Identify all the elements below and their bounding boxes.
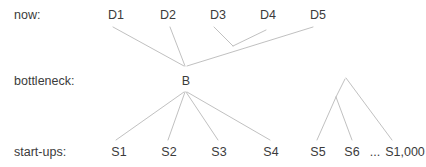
row-label-startups: start-ups: xyxy=(14,145,66,159)
node-d5: D5 xyxy=(310,8,326,22)
node-d4: D4 xyxy=(260,8,276,22)
node-d1: D1 xyxy=(108,8,124,22)
edge-d1-to-b xyxy=(113,27,184,66)
node-s5: S5 xyxy=(310,145,325,159)
edge-cluster-apex-to-subnode xyxy=(336,79,345,97)
row-label-bottleneck: bottleneck: xyxy=(14,74,74,88)
edge-d5-to-b xyxy=(187,27,313,66)
edge-cluster-apex-to-s1000 xyxy=(346,78,392,140)
edge-b-to-s3 xyxy=(186,92,218,140)
node-s1: S1 xyxy=(111,145,126,159)
node-s2: S2 xyxy=(161,145,176,159)
node-s1000: S1,000 xyxy=(385,145,425,159)
edge-d4-to-trunk xyxy=(233,30,266,46)
edge-group xyxy=(113,27,392,140)
row-label-now: now: xyxy=(14,8,40,22)
edge-subnode-to-s6 xyxy=(336,97,352,140)
node-s6: S6 xyxy=(344,145,359,159)
node-ellipsis: ... xyxy=(370,145,380,159)
node-s4: S4 xyxy=(263,145,278,159)
edge-b-to-s1 xyxy=(116,92,184,140)
diagram-canvas: now: bottleneck: start-ups: D1 D2 D3 D4 … xyxy=(0,0,426,167)
node-b: B xyxy=(182,74,190,88)
edge-b-to-s2 xyxy=(168,92,185,140)
node-s3: S3 xyxy=(211,145,226,159)
edge-subnode-to-s5 xyxy=(317,97,336,140)
node-d3: D3 xyxy=(210,8,226,22)
edge-d3-to-trunk xyxy=(214,27,233,46)
node-d2: D2 xyxy=(160,8,176,22)
edge-d2-to-b xyxy=(170,27,185,66)
edge-b-to-s4 xyxy=(187,92,270,140)
